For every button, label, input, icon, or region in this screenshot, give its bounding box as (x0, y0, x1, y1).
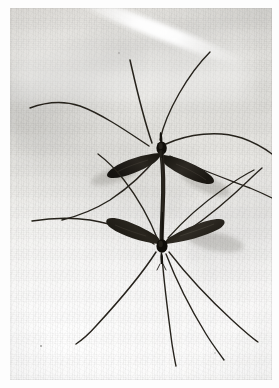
lower-fly-legs (32, 154, 262, 366)
dust-speck (214, 352, 216, 354)
antennae (157, 264, 166, 270)
crane-fly-pair (10, 8, 272, 380)
head (160, 252, 163, 264)
lower-crane-fly (32, 154, 262, 366)
thorax-sheen (159, 143, 163, 149)
photo-page (0, 0, 279, 388)
upper-crane-fly (30, 52, 272, 220)
wing-left (106, 218, 159, 244)
leg (166, 254, 224, 360)
leg (169, 252, 258, 342)
leg (166, 134, 272, 154)
leg (130, 60, 152, 143)
leg (160, 52, 210, 140)
photograph (10, 8, 272, 380)
thorax-sheen (158, 241, 162, 247)
upper-fly-legs (30, 52, 272, 220)
leg (30, 102, 149, 146)
photo-caption (10, 381, 272, 387)
leg (76, 252, 156, 344)
joined-abdomens (161, 152, 163, 246)
dust-speck (118, 52, 120, 54)
